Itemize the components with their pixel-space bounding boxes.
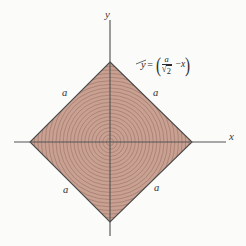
equation-close-paren: ) [185, 57, 190, 74]
equation-fraction: a √2 [162, 55, 172, 75]
side-label-top-left: a [62, 88, 67, 99]
x-axis-label: x [229, 131, 234, 142]
figure-canvas: y x a a a a y = ( a √2 −x ) [0, 0, 246, 246]
side-label-bottom-left: a [63, 185, 68, 196]
side-label-bottom-right: a [154, 183, 159, 194]
boundary-equation-label: y = ( a √2 −x ) [141, 55, 191, 75]
equation-lhs: y [141, 60, 146, 71]
equation-open-paren: ( [156, 57, 161, 74]
diagram-graphics [0, 0, 246, 246]
y-axis-label: y [105, 9, 110, 20]
equation-equals-sign: = [147, 60, 153, 70]
equation-denominator-group: √2 [162, 65, 172, 76]
equation-minus-x: −x [176, 60, 186, 70]
side-label-top-right: a [153, 88, 158, 99]
radical-sign: √ [162, 65, 167, 75]
equation-denominator: 2 [166, 65, 171, 75]
